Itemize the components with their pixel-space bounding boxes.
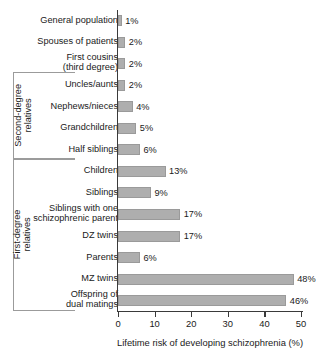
bar-value-label: 17% <box>184 209 202 219</box>
bar-value-label: 13% <box>169 166 187 176</box>
bar <box>118 58 125 69</box>
schizophrenia-risk-bar-chart: General population1%Spouses of patients2… <box>0 0 330 359</box>
chart-row: Spouses of patients2% <box>0 32 330 53</box>
bar-container <box>118 101 133 112</box>
bar-value-label: 2% <box>129 37 142 47</box>
bar-container <box>118 295 286 306</box>
category-label: General population <box>0 15 118 25</box>
group-bracket-label: Second-degree relatives <box>13 75 34 156</box>
bar-container <box>118 166 166 177</box>
category-label: Spouses of patients <box>0 36 118 46</box>
x-tick-mark <box>155 312 156 317</box>
bar-container <box>118 252 140 263</box>
bar-value-label: 6% <box>143 145 156 155</box>
bar <box>118 209 180 220</box>
x-tick-label: 40 <box>249 318 279 329</box>
bar-container <box>118 187 151 198</box>
bar-value-label: 4% <box>136 102 149 112</box>
x-axis-title: Lifetime risk of developing schizophreni… <box>117 337 303 348</box>
bar <box>118 15 122 26</box>
bar-container <box>118 144 140 155</box>
bar-container <box>118 58 125 69</box>
x-tick-mark <box>301 312 302 317</box>
bar-value-label: 5% <box>140 123 153 133</box>
bar-value-label: 2% <box>129 59 142 69</box>
x-tick-label: 0 <box>103 318 133 329</box>
bar-container <box>118 274 294 285</box>
bar <box>118 101 133 112</box>
bar <box>118 231 180 242</box>
bar-value-label: 6% <box>143 253 156 263</box>
bar-container <box>118 15 122 26</box>
bar-container <box>118 231 180 242</box>
category-label: First cousins (third degree) <box>0 52 118 72</box>
x-tick-mark <box>118 312 119 317</box>
bar <box>118 187 151 198</box>
bar-value-label: 2% <box>129 80 142 90</box>
bar-container <box>118 209 180 220</box>
bar <box>118 80 125 91</box>
bar-value-label: 17% <box>184 231 202 241</box>
bar <box>118 252 140 263</box>
bar <box>118 123 136 134</box>
bar <box>118 274 294 285</box>
chart-row: General population1% <box>0 10 330 31</box>
bar <box>118 295 286 306</box>
bar <box>118 144 140 155</box>
bar <box>118 166 166 177</box>
y-axis-line <box>117 10 118 312</box>
x-axis-line <box>117 311 303 312</box>
x-tick-mark <box>264 312 265 317</box>
group-bracket-label: First-degree relatives <box>13 161 34 306</box>
x-tick-mark <box>191 312 192 317</box>
x-tick-label: 20 <box>176 318 206 329</box>
bar-value-label: 9% <box>154 188 167 198</box>
x-tick-label: 30 <box>213 318 243 329</box>
bar-container <box>118 123 136 134</box>
bar-value-label: 46% <box>290 296 308 306</box>
x-tick-label: 50 <box>286 318 316 329</box>
bar <box>118 37 125 48</box>
bar-container <box>118 37 125 48</box>
bar-value-label: 48% <box>297 274 315 284</box>
bar-container <box>118 80 125 91</box>
x-tick-mark <box>228 312 229 317</box>
bar-value-label: 1% <box>125 16 138 26</box>
x-tick-label: 10 <box>140 318 170 329</box>
